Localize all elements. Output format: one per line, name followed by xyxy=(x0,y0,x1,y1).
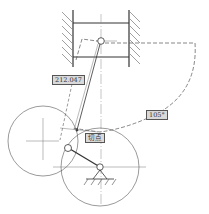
left-construction-circle xyxy=(8,106,78,176)
mechanism-drawing xyxy=(0,0,209,214)
tangent-point-label: 切点 xyxy=(85,133,105,143)
angle-dimension-label: 105° xyxy=(146,110,168,120)
crank-arm xyxy=(70,149,100,167)
cylinder-wall-right xyxy=(129,10,140,67)
crank-pin xyxy=(65,145,72,152)
cylinder-wall-left xyxy=(62,10,73,67)
length-dimension-label: 212.047 xyxy=(52,75,85,85)
dashed-locus-arc xyxy=(72,39,195,132)
dashed-construction-line xyxy=(60,84,72,140)
piston-pin xyxy=(98,38,105,45)
